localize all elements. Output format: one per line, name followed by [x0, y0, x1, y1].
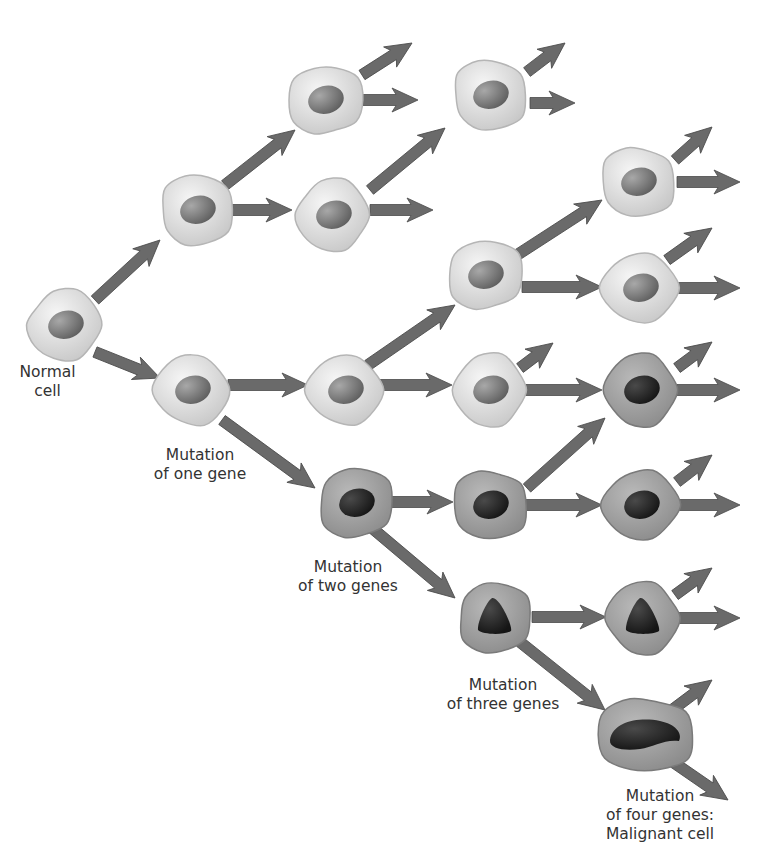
normal-cell	[455, 60, 525, 130]
three-genes-label: Mutation of three genes	[433, 676, 573, 714]
division-arrow	[677, 606, 740, 630]
two-genes-label: Mutation of two genes	[283, 558, 413, 596]
normal-cell	[163, 175, 233, 246]
division-arrow	[532, 605, 606, 629]
division-arrow	[677, 276, 740, 300]
diagram-canvas	[0, 0, 773, 854]
division-arrow	[356, 33, 419, 85]
division-arrow	[677, 493, 740, 517]
division-arrow	[530, 91, 575, 115]
normal-cell	[295, 178, 370, 252]
division-arrow	[87, 231, 168, 309]
normal-cell	[450, 241, 523, 309]
division-arrow	[370, 198, 433, 222]
division-arrow	[660, 218, 719, 270]
division-arrow	[525, 378, 602, 402]
division-arrow	[232, 198, 292, 222]
normal-cell	[452, 353, 526, 427]
mutant-cell	[603, 353, 678, 427]
division-arrow	[362, 119, 452, 199]
division-arrow	[513, 333, 560, 377]
four-genes-label: Mutation of four genes: Malignant cell	[585, 787, 735, 844]
normal-cell	[152, 355, 230, 426]
normal-cell	[289, 67, 363, 134]
division-arrow	[668, 558, 719, 604]
normal-cell	[26, 288, 101, 361]
division-arrow	[522, 275, 602, 299]
mutant-cell	[605, 582, 680, 656]
mutant-cell	[461, 583, 531, 653]
mutant-cell	[598, 698, 692, 770]
cell-layer	[26, 60, 692, 771]
normal-cell	[599, 253, 679, 323]
normal-cell	[603, 147, 674, 216]
division-arrow	[677, 170, 740, 194]
division-arrow	[677, 378, 740, 402]
division-arrow	[91, 341, 165, 389]
normal-cell-label: Normal cell	[5, 363, 90, 401]
division-arrow	[510, 190, 608, 265]
division-arrow	[670, 332, 719, 377]
mutant-cell	[454, 471, 526, 539]
division-arrow	[378, 373, 452, 397]
division-arrow	[363, 88, 418, 112]
one-gene-label: Mutation of one gene	[140, 446, 260, 484]
division-arrow	[519, 409, 613, 497]
division-arrow	[218, 121, 303, 195]
division-arrow	[520, 33, 573, 81]
division-arrow	[361, 295, 462, 375]
division-arrow	[522, 493, 602, 517]
division-arrow	[667, 118, 720, 169]
division-arrow	[228, 373, 308, 397]
division-arrow	[670, 445, 720, 491]
mutant-cell	[601, 470, 681, 540]
cancer-progression-diagram: Normal cellMutation of one geneMutation …	[0, 0, 773, 854]
mutant-cell	[321, 469, 392, 538]
